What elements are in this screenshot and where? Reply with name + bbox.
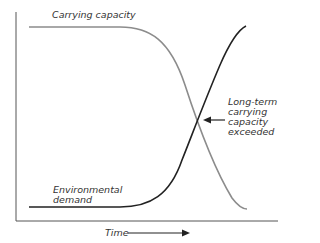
carrying-capacity-label: Carrying capacity — [52, 10, 136, 20]
annotation-arrowhead-icon — [203, 117, 211, 124]
exceeded-label: Long-term carrying capacity exceeded — [228, 97, 277, 137]
carrying-capacity-curve — [29, 27, 247, 209]
environmental-demand-label-line2: demand — [53, 195, 122, 205]
environmental-demand-label: Environmental demand — [53, 185, 122, 205]
environmental-demand-curve — [29, 26, 246, 207]
exceeded-label-line4: exceeded — [228, 127, 277, 137]
time-arrowhead-icon — [182, 230, 190, 237]
x-axis-label: Time — [105, 228, 129, 238]
